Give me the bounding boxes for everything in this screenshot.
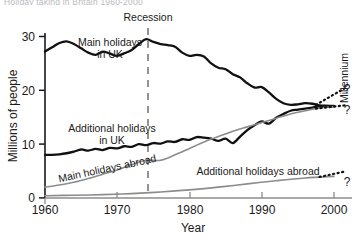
label-main-holidays-uk-line1: Main holidays	[78, 36, 142, 48]
x-tick-label-1960: 1960	[32, 203, 59, 217]
label-additional-holidays-uk-line2: in UK	[99, 134, 125, 146]
y-tick-label-20: 20	[22, 84, 36, 98]
y-axis-title: Millions of people	[6, 69, 20, 162]
x-axis-title: Year	[181, 221, 205, 235]
label-main-holidays-abroad: Main holidays abroad	[57, 152, 157, 185]
series-line-main-holidays-in-uk	[45, 39, 334, 106]
question-mark-lower: ?	[344, 175, 351, 189]
series-labels: Main holidays in UK Additional holidays …	[57, 36, 320, 184]
recession-label: Recession	[123, 11, 172, 23]
y-tick-label-30: 30	[22, 30, 36, 44]
x-tick-label-1980: 1980	[177, 203, 204, 217]
question-mark-middle: ?	[344, 103, 351, 117]
label-additional-holidays-abroad: Additional holidays abroad	[196, 165, 319, 177]
label-main-holidays-uk-line2: in UK	[97, 48, 123, 60]
question-mark-upper: ?	[344, 82, 351, 96]
x-tick-label-1970: 1970	[104, 203, 131, 217]
label-additional-holidays-uk-line1: Additional holidays	[68, 122, 156, 134]
x-tick-label-1990: 1990	[249, 203, 276, 217]
x-tick-label-2000: 2000	[321, 203, 348, 217]
holiday-taking-line-chart: 30 20 10 0 1960 1970 1980 1990 2000 Year…	[0, 0, 363, 246]
y-axis-ticks: 30 20 10 0	[22, 30, 45, 205]
y-tick-label-10: 10	[22, 138, 36, 152]
